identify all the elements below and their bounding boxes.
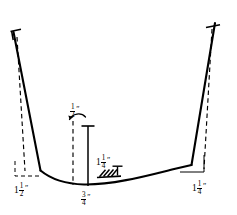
inch-mark: ″ xyxy=(25,184,28,193)
dimension-label-mid-right: 114″ xyxy=(96,155,110,171)
profile-trough-floor xyxy=(41,165,192,185)
inch-mark: ″ xyxy=(107,156,110,165)
dimension-whole-number: 1 xyxy=(14,185,19,195)
fraction-denominator: 4 xyxy=(101,163,106,170)
profile-left-wall xyxy=(14,32,41,171)
dimension-label-right-bottom: 114″ xyxy=(192,181,206,197)
dimension-fraction: 14 xyxy=(101,155,106,171)
dimension-label-left-bottom: 112″ xyxy=(14,183,28,199)
dimension-whole-number: 1 xyxy=(192,183,197,193)
left-dimension-bracket xyxy=(15,161,40,176)
dimension-fraction: 12 xyxy=(70,104,75,120)
inch-mark: ″ xyxy=(203,182,206,191)
fraction-denominator: 4 xyxy=(197,189,202,196)
dimension-label-bottom-center: 34″ xyxy=(81,192,90,208)
dimension-fraction: 14 xyxy=(197,181,202,197)
dimension-fraction: 12 xyxy=(19,183,24,199)
fraction-denominator: 4 xyxy=(81,200,86,207)
top-right-tick-mark xyxy=(206,25,220,28)
dimension-fraction: 34 xyxy=(81,192,86,208)
inch-mark: ″ xyxy=(76,105,79,114)
profile-right-wall xyxy=(192,23,216,165)
fraction-denominator: 2 xyxy=(70,112,75,119)
dimension-whole-number: 1 xyxy=(96,157,101,167)
inch-mark: ″ xyxy=(87,193,90,202)
dimension-label-center-top: 12″ xyxy=(70,104,79,120)
technical-drawing-figure: 112″ 12″ 114″ 34″ 114″ xyxy=(0,0,237,215)
fraction-denominator: 2 xyxy=(19,191,24,198)
